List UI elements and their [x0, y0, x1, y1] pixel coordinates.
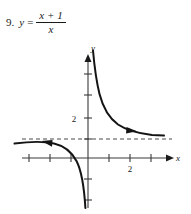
curve-right-branch [93, 51, 164, 136]
figure-container: 9. y = x + 1 x [0, 0, 191, 214]
fraction-numerator: x + 1 [36, 10, 65, 22]
x-axis-label: x [175, 153, 180, 163]
graph-plot: x y 2 2 [0, 34, 191, 214]
equation-lhs: y [19, 17, 24, 28]
fraction: x + 1 x [36, 10, 65, 35]
problem-number: 9. [6, 17, 14, 28]
x-tick-label-2: 2 [128, 164, 133, 174]
problem-statement: 9. y = x + 1 x [6, 10, 66, 35]
x-axis-arrowhead [166, 155, 174, 162]
curve-left-branch [15, 142, 86, 208]
equals-sign: = [27, 17, 33, 28]
y-tick-label-2: 2 [72, 114, 77, 124]
curve-left-arrowhead [42, 140, 53, 147]
y-axis-arrowhead [85, 54, 92, 62]
